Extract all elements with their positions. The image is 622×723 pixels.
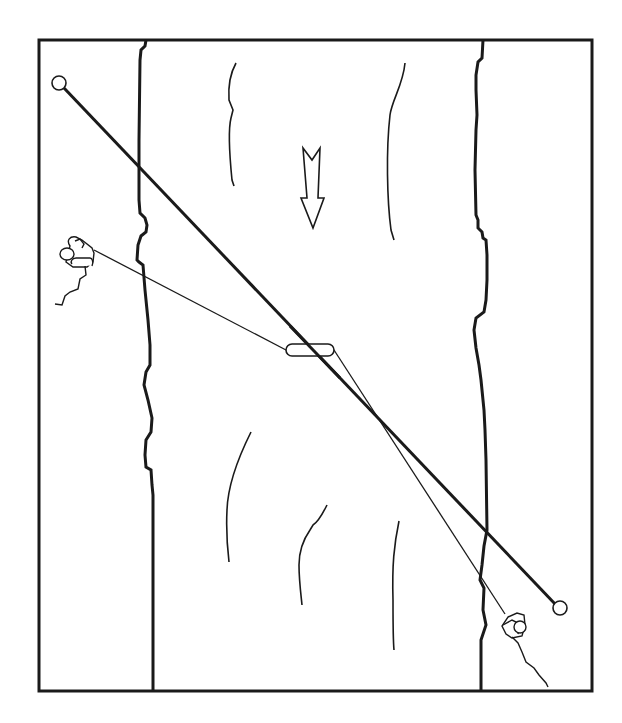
left-riverbank xyxy=(137,40,153,691)
belay-line-left xyxy=(94,250,286,350)
frame-border xyxy=(39,40,592,691)
right-riverbank xyxy=(474,40,487,691)
river-crossing-diagram xyxy=(0,0,622,723)
downstream-arrow xyxy=(301,148,324,228)
belay-line-right xyxy=(334,350,505,614)
anchor-upper-left xyxy=(52,76,66,90)
belayer-left-bank xyxy=(55,237,94,305)
diagram-canvas: River crossing with tensioned line and t… xyxy=(0,0,622,723)
anchor-lower-right xyxy=(553,601,567,615)
belayer-right-bank xyxy=(502,613,548,687)
